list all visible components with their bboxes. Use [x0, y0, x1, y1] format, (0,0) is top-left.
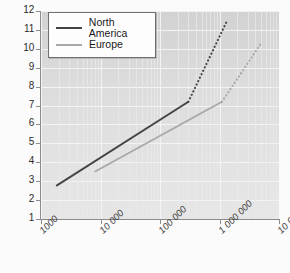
- chart-legend: North America Europe: [48, 12, 156, 58]
- y-tick-mark: [36, 200, 40, 201]
- y-tick-label: 6: [10, 117, 34, 128]
- y-tick-mark: [36, 143, 40, 144]
- y-tick-label: 5: [10, 136, 34, 147]
- series-line-europe-dotted: [222, 43, 261, 102]
- y-tick-label: 12: [10, 4, 34, 15]
- legend-swatch-north-america: [56, 27, 82, 29]
- series-line-europe-solid: [95, 102, 222, 172]
- y-tick-label: 1: [10, 212, 34, 223]
- y-tick-mark: [36, 11, 40, 12]
- chart-figure: Urban heat difference (°C) 1234567891011…: [0, 0, 290, 273]
- y-axis-line: [40, 11, 41, 220]
- y-tick-label: 10: [10, 42, 34, 53]
- legend-item-europe: Europe: [49, 36, 155, 53]
- y-tick-mark: [36, 124, 40, 125]
- legend-item-north-america: North America: [49, 19, 155, 36]
- series-line-north-america-dotted: [188, 22, 226, 101]
- y-tick-mark: [36, 68, 40, 69]
- legend-label-europe: Europe: [89, 39, 123, 50]
- y-tick-label: 8: [10, 80, 34, 91]
- y-tick-label: 3: [10, 174, 34, 185]
- y-tick-mark: [36, 106, 40, 107]
- y-tick-mark: [36, 162, 40, 163]
- y-tick-label: 4: [10, 155, 34, 166]
- y-tick-mark: [36, 49, 40, 50]
- y-tick-mark: [36, 181, 40, 182]
- y-tick-mark: [36, 219, 40, 220]
- legend-swatch-europe: [56, 44, 82, 46]
- series-line-north-america-solid: [56, 102, 188, 186]
- legend-label-north-america: North America: [89, 17, 155, 38]
- y-tick-label: 11: [10, 23, 34, 34]
- y-tick-label: 7: [10, 99, 34, 110]
- y-tick-mark: [36, 87, 40, 88]
- y-tick-label: 2: [10, 193, 34, 204]
- y-tick-label: 9: [10, 61, 34, 72]
- y-tick-mark: [36, 30, 40, 31]
